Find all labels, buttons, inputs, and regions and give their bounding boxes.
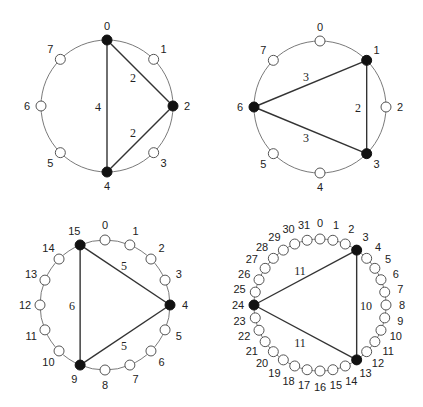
filled-node-2 bbox=[168, 101, 178, 111]
ring-diagram-ring-8-b: 32301234567 bbox=[237, 21, 403, 193]
filled-node-24 bbox=[249, 300, 259, 310]
open-node-0 bbox=[315, 234, 325, 244]
node-label: 2 bbox=[159, 242, 165, 254]
open-node-0 bbox=[315, 36, 325, 46]
open-node-19 bbox=[278, 355, 288, 365]
open-node-12 bbox=[362, 347, 372, 357]
node-label: 22 bbox=[238, 330, 250, 342]
node-label: 5 bbox=[176, 330, 182, 342]
edge-4-9 bbox=[80, 305, 170, 365]
node-label: 29 bbox=[268, 231, 280, 243]
node-label: 7 bbox=[47, 43, 53, 55]
ring-diagrams: 2240123456732301234567556012345678910111… bbox=[0, 0, 423, 407]
open-node-27 bbox=[260, 263, 270, 273]
node-label: 21 bbox=[246, 345, 258, 357]
open-node-15 bbox=[328, 365, 338, 375]
open-node-5 bbox=[55, 148, 65, 158]
open-node-6 bbox=[36, 101, 46, 111]
node-label: 0 bbox=[102, 219, 108, 231]
node-label: 6 bbox=[237, 101, 243, 113]
node-label: 15 bbox=[330, 379, 342, 391]
open-node-10 bbox=[54, 346, 64, 356]
node-label: 15 bbox=[68, 225, 80, 237]
edge-weight-label: 11 bbox=[294, 336, 306, 350]
edge-weight-label: 3 bbox=[303, 70, 309, 84]
open-node-7 bbox=[125, 360, 135, 370]
ring-diagram-ring-16: 5560123456789101112131415 bbox=[19, 219, 188, 391]
open-node-0 bbox=[100, 235, 110, 245]
node-label: 12 bbox=[372, 357, 384, 369]
open-node-2 bbox=[340, 239, 350, 249]
open-node-5 bbox=[160, 325, 170, 335]
node-label: 6 bbox=[24, 100, 30, 112]
edge-6-3 bbox=[254, 107, 367, 154]
open-node-21 bbox=[260, 337, 270, 347]
open-node-2 bbox=[381, 102, 391, 112]
open-node-6 bbox=[376, 275, 386, 285]
node-label: 26 bbox=[238, 268, 250, 280]
node-label: 10 bbox=[42, 356, 54, 368]
filled-node-0 bbox=[102, 35, 112, 45]
node-label: 1 bbox=[333, 219, 339, 231]
filled-node-4 bbox=[165, 300, 175, 310]
filled-node-3 bbox=[362, 149, 372, 159]
open-node-11 bbox=[370, 337, 380, 347]
ring-diagram-ring-8-a: 22401234567 bbox=[24, 20, 190, 192]
edge-15-4 bbox=[80, 245, 170, 305]
node-label: 9 bbox=[397, 315, 403, 327]
open-node-13 bbox=[40, 275, 50, 285]
node-label: 4 bbox=[375, 241, 381, 253]
node-label: 14 bbox=[42, 242, 54, 254]
node-label: 3 bbox=[161, 157, 167, 169]
filled-node-6 bbox=[249, 102, 259, 112]
node-label: 3 bbox=[176, 268, 182, 280]
node-label: 8 bbox=[399, 299, 405, 311]
open-node-7 bbox=[55, 54, 65, 64]
node-label: 23 bbox=[233, 315, 245, 327]
node-label: 30 bbox=[282, 223, 294, 235]
edge-weight-label: 11 bbox=[294, 264, 306, 278]
diagram-canvas: 2240123456732301234567556012345678910111… bbox=[0, 0, 423, 407]
node-label: 24 bbox=[232, 299, 244, 311]
node-label: 5 bbox=[260, 158, 266, 170]
open-node-7 bbox=[380, 287, 390, 297]
node-label: 13 bbox=[359, 367, 371, 379]
node-label: 1 bbox=[133, 225, 139, 237]
node-label: 4 bbox=[104, 180, 110, 192]
open-node-14 bbox=[340, 361, 350, 371]
node-label: 0 bbox=[317, 217, 323, 229]
node-label: 13 bbox=[25, 268, 37, 280]
filled-node-13 bbox=[352, 355, 362, 365]
open-node-10 bbox=[376, 325, 386, 335]
open-node-8 bbox=[100, 365, 110, 375]
edge-weight-label: 5 bbox=[121, 339, 127, 353]
open-node-2 bbox=[146, 254, 156, 264]
ring-diagram-ring-32: 1110110123456789101112131415161718192021… bbox=[232, 217, 405, 393]
edge-weight-label: 2 bbox=[130, 126, 136, 140]
node-label: 18 bbox=[282, 375, 294, 387]
node-label: 7 bbox=[133, 373, 139, 385]
node-label: 20 bbox=[256, 357, 268, 369]
node-label: 12 bbox=[19, 299, 31, 311]
node-label: 2 bbox=[184, 100, 190, 112]
node-label: 3 bbox=[362, 231, 368, 243]
node-label: 31 bbox=[298, 219, 310, 231]
node-label: 5 bbox=[47, 157, 53, 169]
node-label: 2 bbox=[397, 101, 403, 113]
node-label: 4 bbox=[182, 299, 188, 311]
edge-weight-label: 2 bbox=[355, 101, 361, 115]
node-label: 7 bbox=[397, 283, 403, 295]
open-node-25 bbox=[250, 287, 260, 297]
node-label: 16 bbox=[314, 381, 326, 393]
open-node-30 bbox=[290, 239, 300, 249]
node-label: 6 bbox=[393, 268, 399, 280]
open-node-3 bbox=[149, 148, 159, 158]
edge-weight-label: 3 bbox=[303, 131, 309, 145]
open-node-28 bbox=[268, 253, 278, 263]
node-label: 8 bbox=[102, 379, 108, 391]
node-label: 27 bbox=[246, 253, 258, 265]
filled-node-4 bbox=[102, 167, 112, 177]
filled-node-9 bbox=[75, 360, 85, 370]
node-label: 1 bbox=[374, 44, 380, 56]
open-node-12 bbox=[35, 300, 45, 310]
